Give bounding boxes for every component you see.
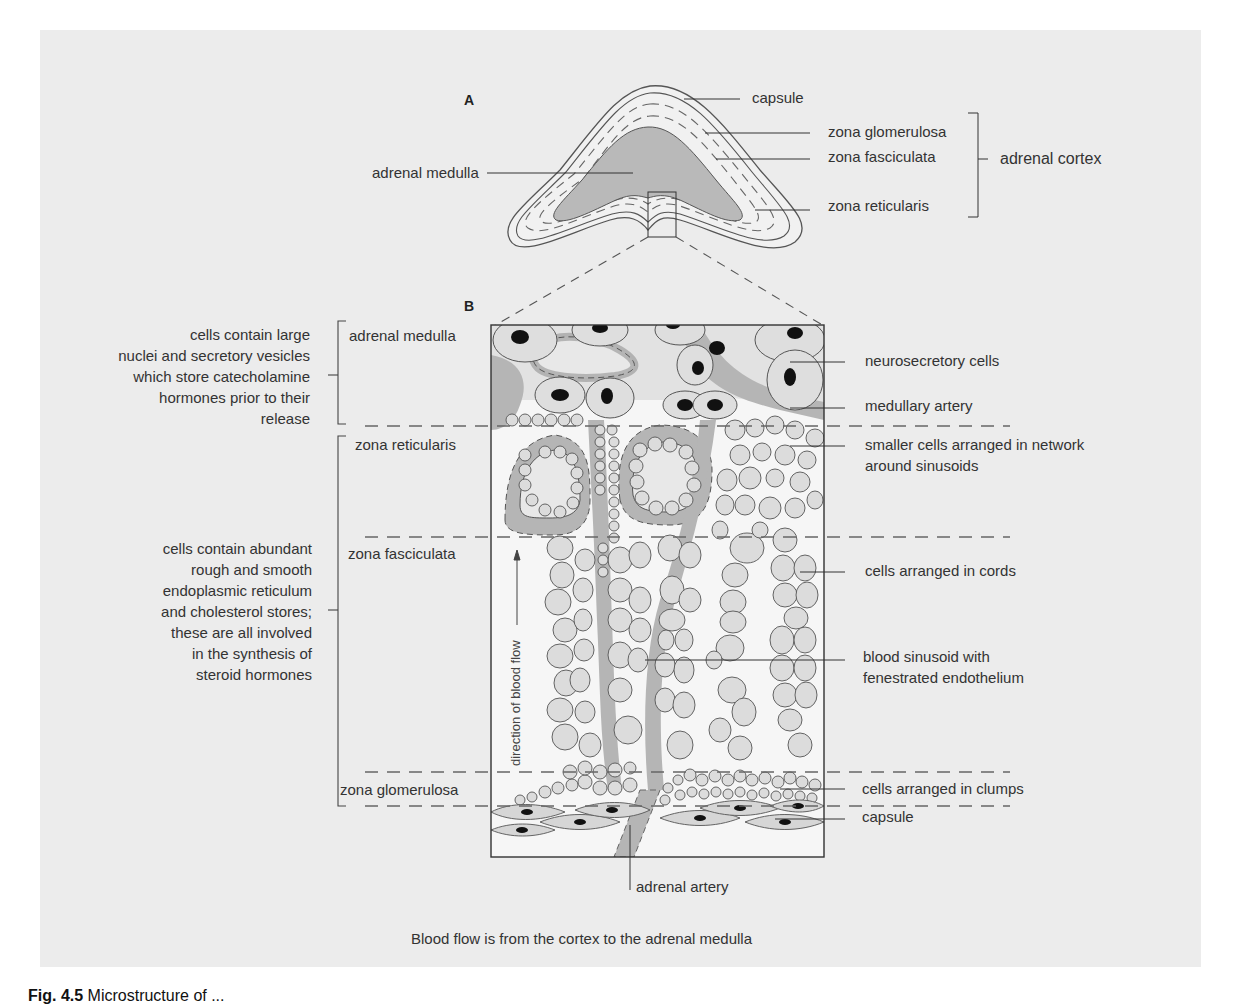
figure-caption: Fig. 4.5 Microstructure of ... xyxy=(28,987,225,1005)
label-adrenal-artery: adrenal artery xyxy=(636,878,729,896)
panel-caption: Blood flow is from the cortex to the adr… xyxy=(411,930,752,947)
tissue-section xyxy=(491,314,825,857)
zone-label-zona-reticularis: zona reticularis xyxy=(355,436,456,454)
label-neurosecretory-cells: neurosecretory cells xyxy=(865,352,999,370)
label-cells-in-clumps: cells arranged in clumps xyxy=(862,780,1024,798)
label-zona-glomerulosa-a: zona glomerulosa xyxy=(828,123,946,141)
label-capsule-b: capsule xyxy=(862,808,914,826)
label-capsule-a: capsule xyxy=(752,89,804,107)
label-blood-sinusoid: blood sinusoid with fenestrated endothel… xyxy=(863,646,1123,688)
panel-b-letter: B xyxy=(464,298,474,314)
zone-label-zona-fasciculata: zona fasciculata xyxy=(348,545,456,563)
label-adrenal-medulla-a: adrenal medulla xyxy=(372,164,479,182)
label-smaller-cells: smaller cells arranged in network around… xyxy=(865,434,1165,476)
panel-a-letter: A xyxy=(464,92,474,108)
note-medulla: cells contain large nuclei and secretory… xyxy=(100,324,310,429)
gland-cross-section xyxy=(508,86,802,248)
zone-label-adrenal-medulla: adrenal medulla xyxy=(349,327,456,345)
label-direction-of-blood-flow: direction of blood flow xyxy=(508,640,523,766)
label-cells-in-cords: cells arranged in cords xyxy=(865,562,1016,580)
note-cortex: cells contain abundant rough and smooth … xyxy=(100,538,312,685)
zoom-projection-lines xyxy=(494,237,824,326)
label-zona-reticularis-a: zona reticularis xyxy=(828,197,929,215)
label-zona-fasciculata-a: zona fasciculata xyxy=(828,148,936,166)
label-adrenal-cortex: adrenal cortex xyxy=(1000,150,1101,168)
label-medullary-artery: medullary artery xyxy=(865,397,973,415)
zone-label-zona-glomerulosa: zona glomerulosa xyxy=(340,781,458,799)
zone-brackets xyxy=(328,321,346,806)
